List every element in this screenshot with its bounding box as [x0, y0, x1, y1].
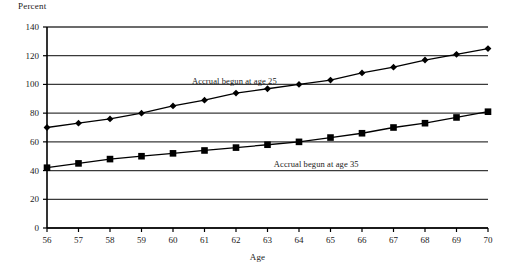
x-tick-label: 64 [287, 235, 311, 245]
data-point-square [485, 108, 492, 115]
data-point-diamond [138, 110, 145, 117]
x-tick-label: 70 [476, 235, 500, 245]
data-point-diamond [422, 57, 429, 64]
data-point-diamond [233, 90, 240, 97]
chart-plot-area [0, 0, 515, 273]
data-point-square [201, 147, 208, 154]
data-point-square [138, 153, 145, 160]
data-point-diamond [170, 103, 177, 110]
data-point-diamond [485, 45, 492, 52]
data-point-square [453, 114, 460, 121]
y-tick-label: 0 [9, 223, 39, 233]
y-tick-label: 40 [9, 166, 39, 176]
y-tick-label: 120 [9, 51, 39, 61]
data-point-diamond [201, 97, 208, 104]
x-tick-label: 69 [445, 235, 469, 245]
data-point-diamond [107, 115, 114, 122]
data-point-diamond [359, 70, 366, 77]
data-point-square [422, 120, 429, 127]
x-tick-label: 66 [350, 235, 374, 245]
data-point-square [359, 130, 366, 137]
x-tick-label: 57 [67, 235, 91, 245]
y-axis-title: Percent [18, 1, 46, 11]
data-point-square [170, 150, 177, 157]
x-axis-title: Age [0, 252, 515, 262]
x-tick-label: 56 [35, 235, 59, 245]
data-point-diamond [44, 124, 51, 131]
x-tick-label: 59 [130, 235, 154, 245]
x-tick-label: 62 [224, 235, 248, 245]
y-tick-label: 80 [9, 108, 39, 118]
y-tick-label: 60 [9, 137, 39, 147]
chart-figure: Percent 020406080100120140 5657585960616… [0, 0, 515, 273]
data-point-square [107, 156, 114, 163]
data-point-square [44, 164, 51, 171]
data-point-square [296, 139, 303, 146]
data-point-square [327, 134, 334, 141]
x-tick-label: 65 [319, 235, 343, 245]
data-point-square [390, 124, 397, 131]
series-label-accrual-25: Accrual begun at age 25 [192, 76, 277, 86]
series-label-accrual-35: Accrual begun at age 35 [274, 159, 359, 169]
data-point-square [233, 144, 240, 151]
data-point-diamond [327, 77, 334, 84]
data-point-square [264, 141, 271, 148]
x-tick-label: 63 [256, 235, 280, 245]
y-tick-label: 20 [9, 194, 39, 204]
data-point-diamond [296, 81, 303, 88]
x-tick-label: 60 [161, 235, 185, 245]
x-tick-label: 61 [193, 235, 217, 245]
y-tick-label: 140 [9, 22, 39, 32]
x-tick-label: 67 [382, 235, 406, 245]
x-tick-label: 58 [98, 235, 122, 245]
y-tick-label: 100 [9, 79, 39, 89]
data-point-diamond [390, 64, 397, 71]
data-point-diamond [75, 120, 82, 127]
data-point-square [75, 160, 82, 167]
x-tick-label: 68 [413, 235, 437, 245]
data-point-diamond [453, 51, 460, 58]
data-point-diamond [264, 85, 271, 92]
